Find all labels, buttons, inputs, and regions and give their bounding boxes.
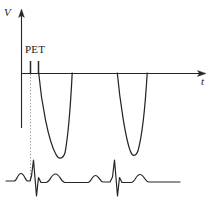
v-axis (19, 9, 25, 128)
ventricular-pressure-ecg-figure: V t PET (0, 0, 212, 202)
t-axis (21, 71, 206, 77)
ecg-waveform-path (6, 160, 180, 196)
v-axis-label: V (4, 7, 11, 18)
t-axis-label: t (201, 76, 204, 87)
ecg-trace (6, 160, 180, 196)
figure-canvas (0, 0, 212, 202)
pressure-dip-1 (39, 73, 72, 158)
pressure-dip-2 (117, 73, 147, 155)
ventricular-pressure-curve (39, 73, 148, 158)
pet-tick-marks (31, 61, 39, 73)
pet-annotation-label: PET (25, 44, 45, 55)
